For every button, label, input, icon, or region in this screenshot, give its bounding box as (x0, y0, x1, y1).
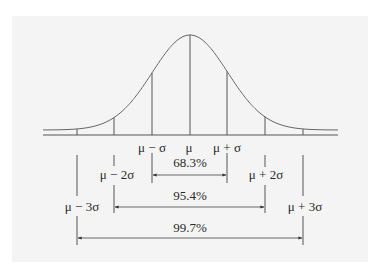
label-mu: μ (186, 140, 193, 155)
percent-three-sigma: 99.7% (173, 220, 207, 235)
label-mu-plus-2sigma: μ + 2σ (249, 167, 283, 182)
label-mu-plus-sigma: μ + σ (213, 140, 241, 155)
percent-one-sigma: 68.3% (173, 155, 207, 170)
label-mu-plus-3sigma: μ + 3σ (288, 199, 322, 214)
percent-two-sigma: 95.4% (173, 188, 207, 203)
label-mu-minus-2sigma: μ − 2σ (100, 167, 134, 182)
label-mu-minus-3sigma: μ − 3σ (65, 199, 99, 214)
label-mu-minus-sigma: μ − σ (138, 140, 166, 155)
normal-distribution-diagram: μ − σ μ μ + σ μ − 2σ μ + 2σ μ − 3σ μ + 3… (0, 0, 381, 272)
